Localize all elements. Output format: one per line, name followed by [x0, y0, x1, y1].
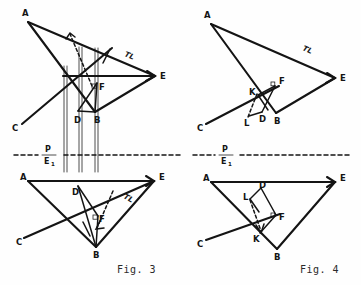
fold-label-right: P E 1 — [219, 145, 233, 167]
vertex-label-a-fig3-bottom: A — [20, 172, 27, 182]
fold-line-group: P E 1 P E 1 — [14, 145, 350, 167]
fold-denominator-right: E — [221, 157, 226, 166]
vertex-label-d-fig4-bottom: D — [259, 180, 266, 190]
line-c-to-f-fig4 — [206, 86, 279, 124]
vertex-label-f-fig4-bottom: F — [279, 212, 285, 222]
vertex-label-b-fig3-bottom: B — [93, 250, 99, 260]
fig4-front-view-group: TL A E C B D F K L — [197, 10, 346, 133]
line-d-to-f-fig3b — [78, 186, 98, 216]
dashed-perpendicular-fig3-top — [70, 34, 92, 86]
vertex-label-k-fig4-top: K — [249, 87, 256, 97]
vertex-label-e-fig4-top: E — [340, 73, 346, 83]
caption-fig4: Fig. 4 — [300, 264, 339, 275]
line-d-to-f-fig4b — [261, 188, 276, 215]
drawing-page: TL A E C B D F TL A E C B D — [0, 0, 361, 285]
vertex-label-a-fig3-top: A — [22, 8, 29, 18]
vertex-label-e-fig3-top: E — [160, 71, 166, 81]
fig3-top-view-group: TL A E C B D F — [16, 172, 165, 260]
tl-label-fig4-top: TL — [301, 44, 314, 56]
vertex-label-k-fig4-bottom: K — [253, 234, 260, 244]
fig3-front-view-group: TL A E C B D F — [12, 8, 166, 172]
fold-numerator-left: P — [45, 145, 51, 154]
vertex-label-f-fig3-top: F — [99, 82, 105, 92]
vertex-label-d-fig4-top: D — [259, 114, 266, 124]
vertex-label-c-fig4-bottom: C — [197, 239, 203, 249]
vertex-label-d-fig3-top: D — [74, 115, 81, 125]
vertex-label-a-fig4-top: A — [204, 10, 211, 20]
fold-numerator-right: P — [222, 145, 228, 154]
line-c-to-f-fig4b — [206, 214, 280, 240]
vertex-label-a-fig4-bottom: A — [203, 173, 210, 183]
line-b-to-e-fig4b — [277, 182, 335, 249]
tl-label-fig3-top: TL — [123, 50, 136, 62]
vertex-label-e-fig3-bottom: E — [159, 172, 165, 182]
vertex-label-c-fig3-top: C — [12, 123, 18, 133]
fig4-top-view-group: A E C B D F K L — [197, 173, 346, 262]
right-angle-marker-f-fig3b — [93, 215, 97, 219]
line-c-to-e-fig3b — [24, 181, 154, 238]
vertex-label-b-fig4-top: B — [274, 116, 280, 126]
technical-drawing-canvas: TL A E C B D F TL A E C B D — [0, 0, 361, 285]
fold-subscript-right: 1 — [228, 161, 232, 167]
fold-label-left: P E 1 — [42, 145, 56, 167]
vertex-label-c-fig4-top: C — [197, 123, 203, 133]
vertex-label-b-fig3-top: B — [94, 115, 100, 125]
vertex-label-f-fig4-top: F — [279, 76, 285, 86]
caption-fig3: Fig. 3 — [117, 264, 156, 275]
vertex-label-b-fig4-bottom: B — [274, 252, 280, 262]
line-d-to-f — [78, 83, 97, 111]
vertex-label-c-fig3-bottom: C — [16, 237, 22, 247]
vertex-label-d-fig3-bottom: D — [72, 187, 79, 197]
vertex-label-l-fig4-top: L — [244, 118, 250, 128]
fold-subscript-left: 1 — [51, 161, 55, 167]
vertex-label-e-fig4-bottom: E — [340, 173, 346, 183]
line-d-to-b — [78, 111, 95, 112]
right-angle-marker-f-fig4 — [271, 82, 275, 86]
line-f-to-b-fig3b — [96, 216, 98, 247]
fold-denominator-left: E — [44, 157, 49, 166]
vertex-label-l-fig4-bottom: L — [243, 192, 249, 202]
vertex-label-f-fig3-bottom: F — [99, 214, 105, 224]
